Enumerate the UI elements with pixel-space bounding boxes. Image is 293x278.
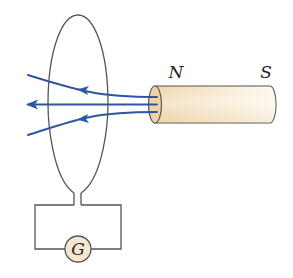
diagram-canvas: G N S: [0, 0, 293, 278]
south-pole-label: S: [260, 62, 272, 82]
field-lines: [28, 75, 157, 135]
bar-magnet: N S: [149, 62, 277, 123]
coil-loop: [48, 15, 108, 205]
galvanometer-label: G: [71, 239, 85, 259]
galvanometer: G: [65, 236, 91, 262]
north-pole-label: N: [168, 62, 185, 82]
field-line-top: [28, 75, 157, 97]
field-line-bottom: [28, 112, 157, 135]
